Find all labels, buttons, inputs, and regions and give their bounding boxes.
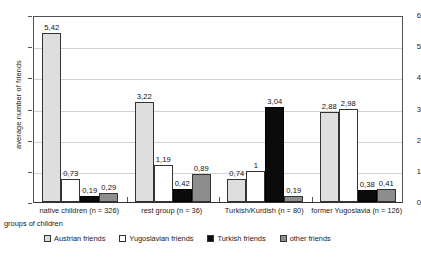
bar-value-label: 0,29	[92, 184, 126, 192]
bar-wrapper: 2,98	[339, 17, 358, 202]
y-axis-tick-mark	[28, 172, 32, 173]
bar-wrapper: 1,19	[154, 17, 173, 202]
x-axis-category-label: native children (n = 326)	[33, 206, 126, 215]
legend-label: Austrian friends	[54, 234, 105, 243]
bar-chart: average number of friends 0123456 5,420,…	[0, 0, 421, 265]
group-separator	[127, 197, 128, 202]
y-axis-tick-mark	[28, 47, 32, 48]
bar	[173, 189, 192, 202]
legend-label: Turkish friends	[217, 234, 265, 243]
bar-group: 5,420,730,190,29	[34, 17, 127, 202]
bar	[246, 171, 265, 202]
x-axis-category-label: rest group (n = 36)	[126, 206, 219, 215]
bar	[377, 189, 396, 202]
bar-wrapper: 0,19	[80, 17, 99, 202]
legend-item: Yugoslavian friends	[119, 234, 193, 243]
bar-wrapper: 0,89	[192, 17, 211, 202]
x-axis-category-label: Turkish/Kurdish (n = 80)	[218, 206, 311, 215]
bar	[227, 179, 246, 202]
bar-wrapper: 2,88	[320, 17, 339, 202]
legend: Austrian friendsYugoslavian friendsTurki…	[44, 234, 331, 243]
bar	[358, 190, 377, 202]
legend-swatch-icon	[207, 235, 214, 242]
bar-group: 0,7413,040,19	[219, 17, 312, 202]
bar	[99, 193, 118, 202]
bar-wrapper: 0,38	[358, 17, 377, 202]
legend-item: other friends	[280, 234, 331, 243]
y-axis-tick-mark	[28, 110, 32, 111]
legend-label: other friends	[290, 234, 331, 243]
y-axis-tick-mark	[28, 16, 32, 17]
bar-wrapper: 0,74	[227, 17, 246, 202]
y-axis-title: average number of friends	[14, 25, 23, 185]
group-separator	[312, 197, 313, 202]
legend-item: Turkish friends	[207, 234, 265, 243]
bar	[192, 174, 211, 202]
legend-swatch-icon	[119, 235, 126, 242]
bar-wrapper: 1	[246, 17, 265, 202]
bar-wrapper: 0,73	[61, 17, 80, 202]
legend-swatch-icon	[280, 235, 287, 242]
bar-wrapper: 0,19	[284, 17, 303, 202]
plot-area: 5,420,730,190,293,221,190,420,890,7413,0…	[33, 16, 403, 203]
y-axis-tick-mark	[28, 141, 32, 142]
legend-label: Yugoslavian friends	[129, 234, 193, 243]
bar	[135, 102, 154, 202]
bar-value-label: 0,89	[184, 165, 218, 173]
group-separator	[219, 197, 220, 202]
y-axis-tick-mark	[28, 203, 32, 204]
bar-wrapper: 3,04	[265, 17, 284, 202]
bar	[284, 196, 303, 202]
y-axis-tick-mark	[28, 78, 32, 79]
bar	[320, 112, 339, 202]
x-axis-category-label: former Yugoslavia (n = 126)	[311, 206, 404, 215]
legend-swatch-icon	[44, 235, 51, 242]
bar-wrapper: 3,22	[135, 17, 154, 202]
bar-value-label: 0,19	[277, 187, 311, 195]
bar-wrapper: 0,29	[99, 17, 118, 202]
legend-item: Austrian friends	[44, 234, 105, 243]
bar-wrapper: 0,42	[173, 17, 192, 202]
bar	[80, 196, 99, 202]
bar-value-label: 0,41	[369, 180, 403, 188]
bar-group: 2,882,980,380,41	[312, 17, 405, 202]
x-axis-title: groups of children	[4, 219, 63, 228]
bar-wrapper: 0,41	[377, 17, 396, 202]
bar-group: 3,221,190,420,89	[127, 17, 220, 202]
